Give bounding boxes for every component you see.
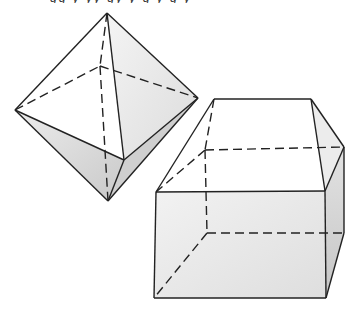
geometry-diagram xyxy=(0,0,358,315)
prism-edge xyxy=(325,191,326,298)
prism-edge xyxy=(156,191,325,192)
prism-face-front xyxy=(154,191,326,298)
prism xyxy=(154,99,344,298)
